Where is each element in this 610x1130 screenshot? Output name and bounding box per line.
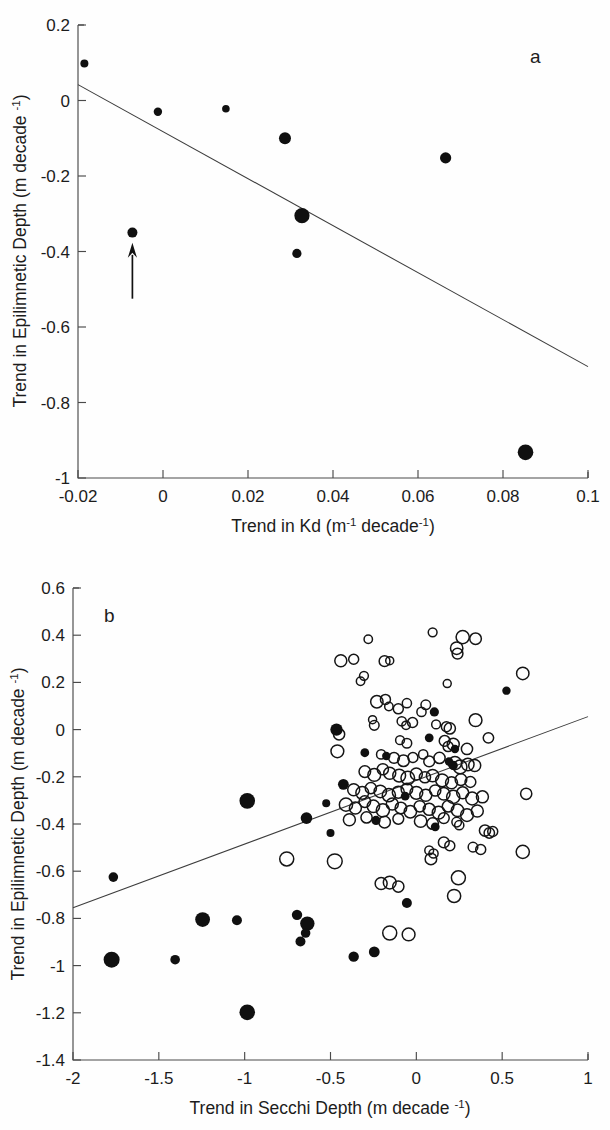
data-point-open [393,704,403,714]
panel-b-yticklabel: 0 [56,721,65,740]
data-point-filled [295,937,305,947]
panel-a-xticklabel: 0.08 [486,487,519,506]
panel-b-scatter-secchi: 0.60.40.20-0.2-0.4-0.6-0.8-1-1.2-1.4 -2-… [0,545,610,1130]
panel-a-xticklabel: 0 [158,487,167,506]
panel-b-xticklabel: -2 [65,1069,80,1088]
data-point-filled [170,955,180,965]
data-point-open [343,814,355,826]
panel-b-xticklabel: 1 [583,1069,592,1088]
panel-b-axes [73,588,588,1060]
panel-a-xtitle-pre: Trend in Kd (m [231,516,346,536]
data-point-filled [338,779,349,790]
data-point-filled [322,799,330,807]
panel-b-svg: 0.60.40.20-0.2-0.4-0.6-0.8-1-1.2-1.4 -2-… [0,545,610,1130]
panel-a-axes [78,25,588,478]
panel-a-xticklabel: 0.04 [316,487,349,506]
data-point-open [443,680,451,688]
data-point-open [521,788,532,799]
panel-b-y-ticks [73,588,81,1060]
panel-a-letter: a [530,46,541,67]
panel-b-xticklabel: -0.5 [316,1069,345,1088]
data-point-filled [445,757,453,765]
data-point-open [383,926,397,940]
data-point-open [428,628,437,637]
data-point-open [438,837,449,848]
panel-a-xtitle-sup2: -1 [419,516,429,528]
panel-a-y-ticks [78,25,86,478]
panel-a-xtitle-post: ) [429,516,435,536]
data-point-open [421,700,431,710]
data-point-open [455,821,464,830]
panel-b-xticklabel: 0.5 [490,1069,514,1088]
data-point-filled [451,745,459,753]
panel-a-scatter-kd: 0.2 0 -0.2 -0.4 -0.6 -0.8 -1 -0.02 0 0.0… [0,0,610,545]
data-point-open [448,889,461,902]
panel-b-ytitle-post: ) [8,667,28,673]
caption-strip [0,1114,610,1130]
panel-a-yticklabel: 0.2 [46,16,70,35]
data-point-open [369,721,379,731]
panel-a-xticklabel: -0.02 [59,487,98,506]
data-point-open [417,707,426,716]
data-point-filled [371,816,380,825]
panel-a-yticklabel: -0.8 [41,394,70,413]
panel-a-xtitle-mid: decade [356,516,418,536]
panel-b-yticklabel: -1.4 [36,1051,65,1070]
data-point-filled [502,686,510,694]
panel-a-y-ticklabels: 0.2 0 -0.2 -0.4 -0.6 -0.8 -1 [41,16,70,488]
panel-a-x-axis-title: Trend in Kd (m-1 decade-1) [231,516,435,536]
data-point-open [424,756,435,767]
panel-b-frame-left-bottom [73,588,588,1060]
panel-b-x-ticklabels: -2-1.5-1-0.500.51 [65,1069,592,1088]
panel-a-yticklabel: 0 [61,92,70,111]
data-point-open [517,667,529,679]
data-point-open [470,633,482,645]
data-point-filled [401,792,410,801]
panel-a-frame-left-bottom [78,25,588,478]
panel-b-yticklabel: -0.2 [36,768,65,787]
panel-b-yticklabel: 0.2 [41,673,65,692]
panel-a-x-ticklabels: -0.02 0 0.02 0.04 0.06 0.08 0.1 [59,487,600,506]
data-point-open [349,654,359,664]
data-point-open [327,854,342,869]
panel-a-ytitle-sup: -1 [10,100,22,110]
panel-b-yticklabel: -1 [50,957,65,976]
panel-a-data-points [80,60,533,461]
data-point-filled [425,733,434,742]
data-point-open [379,816,391,828]
data-point-filled [239,793,255,809]
panel-a-svg: 0.2 0 -0.2 -0.4 -0.6 -0.8 -1 -0.02 0 0.0… [0,0,610,545]
data-point-open [377,764,388,775]
data-point-open [444,723,455,734]
data-point-open [361,812,372,823]
data-point-filled [301,812,313,824]
data-point-open [483,733,493,743]
panel-b-yticklabel: 0.4 [41,626,65,645]
panel-b-letter: b [104,605,115,626]
panel-b-ytitle-pre: Trend in Epilimnetic Depth (m decade [8,684,28,981]
data-point-filled [402,898,412,908]
data-point-filled [80,60,88,68]
data-point-filled [109,872,119,882]
panel-a-yticklabel: -0.6 [41,318,70,337]
data-point-open [379,656,390,667]
panel-b-ytitle-sup: -1 [8,673,20,683]
panel-a-ytitle-pre: Trend in Epilimnetic Depth (m decade [10,111,30,408]
data-point-filled [330,723,342,735]
panel-a-xticklabel: 0.02 [231,487,264,506]
data-point-filled [440,152,451,163]
panel-b-xticklabel: 0 [412,1069,421,1088]
data-point-open [432,720,441,729]
panel-b-xticklabel: -1.5 [144,1069,173,1088]
data-point-open [414,815,426,827]
data-point-filled [360,748,369,757]
data-point-filled [369,947,380,958]
data-point-filled [431,822,440,831]
panel-a-xticklabel: 0.1 [576,487,600,506]
panel-a-yticklabel: -1 [55,469,70,488]
panel-a-ytitle-post: ) [10,94,30,100]
panel-a-xtitle-sup1: -1 [346,516,356,528]
panel-b-xtitle-sup: -1 [454,1098,464,1110]
panel-a-regression-line [78,85,588,367]
up-arrow-annotation [128,243,137,299]
